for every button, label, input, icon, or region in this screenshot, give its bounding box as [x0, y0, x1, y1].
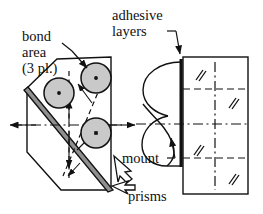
prism-assembly-figure: bond area (3 pl.) — [0, 0, 263, 214]
bond-area-leader — [62, 43, 72, 51]
bond-circle-upper-right-center — [94, 76, 98, 80]
bond-area-label-line3: (3 pl.) — [22, 60, 58, 77]
bond-circle-lower-center — [94, 131, 98, 135]
bond-area-leader-arrow — [72, 51, 87, 68]
internal-ray-arrow-bottom — [68, 163, 80, 176]
adhesive-layers-label-line1: adhesive — [112, 7, 163, 23]
bond-area-label-line1: bond — [22, 28, 52, 44]
bond-circle-upper-left-center — [57, 91, 61, 95]
hatch-mark-bottom-left — [194, 145, 204, 156]
plate-group — [136, 57, 248, 194]
adhesive-layers-label-group: adhesive layers — [112, 7, 180, 54]
hatch-mark-bottom-right — [229, 174, 239, 185]
mount-label: mount — [122, 150, 159, 166]
hatch-mark-top-left — [196, 70, 206, 81]
bond-area-label-line2: area — [22, 44, 47, 60]
adhesive-layers-label-line2: layers — [112, 23, 147, 39]
bond-area-label-group: bond area (3 pl.) — [22, 28, 87, 77]
adhesive-layers-leader-arrow — [176, 31, 180, 54]
adhesive-layer-bar — [180, 59, 183, 167]
figure-canvas: bond area (3 pl.) — [0, 0, 263, 214]
mount-upper-lobe — [143, 62, 181, 116]
hatch-marks — [194, 70, 239, 185]
mount-label-group: mount — [122, 138, 175, 166]
hatch-mark-top-right — [229, 98, 239, 109]
